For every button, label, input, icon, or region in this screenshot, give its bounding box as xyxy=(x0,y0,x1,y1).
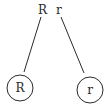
gamete-dominant: R xyxy=(7,75,33,101)
parent-allele-dominant: R xyxy=(38,3,48,17)
allele-segregation-diagram: R r R r xyxy=(0,0,109,110)
gamete-recessive: r xyxy=(77,77,103,103)
segregation-line-right xyxy=(61,17,84,73)
parent-allele-recessive: r xyxy=(56,3,62,17)
gamete-label: r xyxy=(87,83,93,97)
segregation-line-left xyxy=(24,17,41,72)
gamete-label: R xyxy=(15,81,25,95)
